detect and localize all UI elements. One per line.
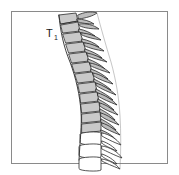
spine-illustration-canvas: T 1 (0, 0, 179, 175)
label-t1-base: T (46, 27, 53, 39)
spine-figure: T 1 (0, 0, 179, 175)
label-t1-subscript: 1 (54, 34, 58, 41)
